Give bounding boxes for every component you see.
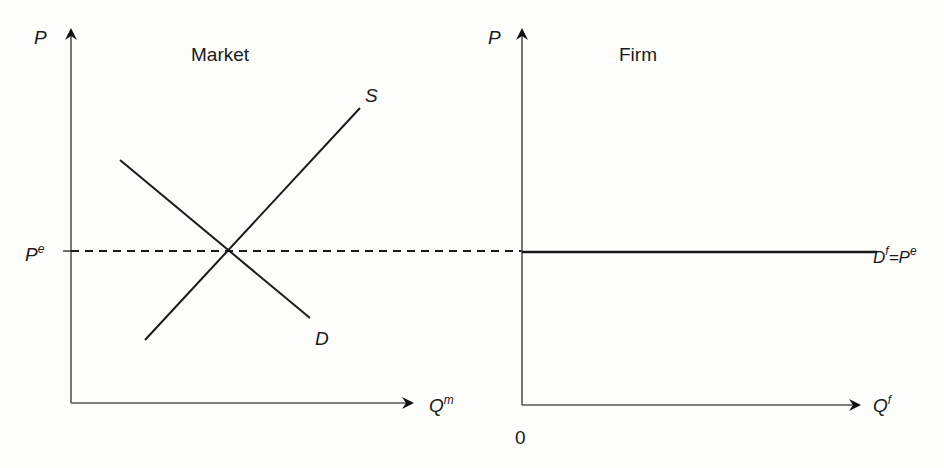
market-title: Market xyxy=(191,45,249,64)
demand-label: D xyxy=(315,329,329,348)
firm-y-axis-label: P xyxy=(488,28,501,47)
market-y-axis-label: P xyxy=(34,28,47,47)
demand-curve xyxy=(120,160,310,318)
diagram-canvas xyxy=(0,0,944,468)
market-x-axis-label: Qm xyxy=(429,394,454,415)
equilibrium-price-label: Pe xyxy=(25,243,44,264)
supply-curve xyxy=(145,108,360,340)
supply-label: S xyxy=(365,86,378,105)
firm-demand-label: Df=Pe xyxy=(873,245,917,266)
firm-title: Firm xyxy=(619,45,657,64)
firm-x-axis-label: Qf xyxy=(873,394,891,415)
origin-label: 0 xyxy=(515,428,526,447)
